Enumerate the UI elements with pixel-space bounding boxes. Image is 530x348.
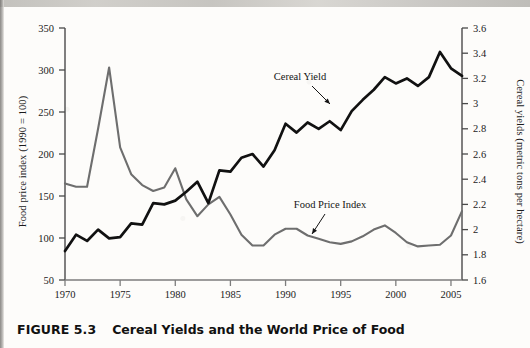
series-annotation-label: Cereal Yield (274, 71, 327, 82)
y-tick-label-left: 50 (44, 275, 55, 286)
annotation-group: Cereal YieldFood Price Index (274, 71, 367, 234)
series-group (65, 52, 462, 251)
y-tick-label-right: 3 (473, 98, 478, 109)
series-annotation-label: Food Price Index (294, 199, 367, 210)
y-tick-label-right: 1.6 (473, 275, 486, 286)
figure-caption: FIGURE 5.3 Cereal Yields and the World P… (17, 322, 405, 337)
y-axis-title-left: Food price index (1990 = 100) (17, 72, 28, 252)
y-tick-label-right: 2.6 (473, 149, 486, 160)
figure-number: FIGURE 5.3 (17, 322, 96, 337)
x-tick-label: 2005 (440, 289, 461, 300)
figure-page: 501001502002503003501.61.822.22.42.62.83… (0, 0, 530, 348)
y-tick-label-right: 2.8 (473, 123, 486, 134)
y-tick-label-right: 2.4 (473, 174, 487, 185)
y-tick-label-right: 3.4 (473, 48, 487, 59)
y-tick-label-right: 1.8 (473, 249, 486, 260)
x-tick-label: 2000 (385, 289, 406, 300)
y-axis-title-right: Cereal yields (metric tons per hectare) (515, 62, 526, 262)
y-tick-label-right: 2 (473, 224, 478, 235)
x-tick-label: 1980 (165, 289, 186, 300)
x-tick-label: 1990 (275, 289, 296, 300)
x-tick-label: 1995 (330, 289, 351, 300)
series-line-food-price-index (65, 67, 462, 246)
y-tick-label-right: 2.2 (473, 199, 486, 210)
figure-title: Cereal Yields and the World Price of Foo… (112, 322, 405, 337)
y-tick-label-right: 3.6 (473, 23, 486, 34)
y-tick-label-left: 200 (38, 149, 54, 160)
y-tick-label-left: 150 (38, 191, 54, 202)
cereal-yield-price-chart: 501001502002503003501.61.822.22.42.62.83… (0, 4, 530, 304)
axes-group: 501001502002503003501.61.822.22.42.62.83… (38, 23, 487, 300)
series-line-cereal-yield (65, 52, 462, 251)
y-tick-label-right: 3.2 (473, 73, 486, 84)
x-tick-label: 1985 (220, 289, 241, 300)
y-tick-label-left: 300 (38, 65, 54, 76)
y-tick-label-left: 100 (38, 233, 54, 244)
y-tick-label-left: 350 (38, 23, 54, 34)
annotation-arrowhead (312, 228, 317, 234)
y-tick-label-left: 250 (38, 107, 54, 118)
chart-plot-area: 501001502002503003501.61.822.22.42.62.83… (0, 4, 530, 304)
x-tick-label: 1975 (110, 289, 131, 300)
x-tick-label: 1970 (55, 289, 76, 300)
